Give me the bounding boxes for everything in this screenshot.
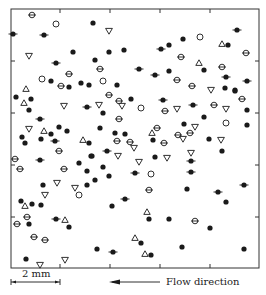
series-circled-dot <box>11 12 250 243</box>
flow-direction-label: Flow direction <box>166 276 239 287</box>
data-points <box>9 12 252 268</box>
flow-direction-arrow-icon <box>109 280 160 285</box>
scatter-figure <box>0 0 266 295</box>
scale-bar-label: 2 mm <box>22 268 51 279</box>
scale-bar <box>11 279 60 285</box>
